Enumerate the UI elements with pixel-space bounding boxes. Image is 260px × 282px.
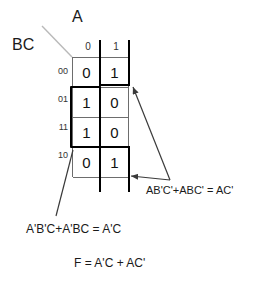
- column-variable-label: A: [72, 8, 83, 26]
- kmap-cell-r10-c0: 0: [73, 148, 101, 178]
- annotation-a-c-prime: AB'C'+ABC' = AC': [146, 184, 233, 196]
- group-outline-a-c-prime-top: [99, 40, 130, 86]
- header-divider-line: [42, 26, 72, 57]
- column-header-0: 0: [81, 41, 95, 52]
- annotation-final-expression: F = A'C + AC': [74, 256, 145, 270]
- kmap-cell-r01-c1: 0: [101, 88, 129, 118]
- annotation-a-prime-c: A'B'C+A'BC = A'C: [26, 222, 121, 236]
- leader-lines-overlay: [0, 0, 260, 282]
- leader-line-to-top-group: [133, 87, 170, 180]
- group-outline-a-c-prime-bottom: [99, 146, 130, 192]
- row-header-11: 11: [48, 122, 68, 132]
- row-header-10: 10: [48, 150, 68, 160]
- row-header-01: 01: [48, 94, 68, 104]
- leader-line-to-bottom-group: [131, 176, 170, 180]
- row-header-00: 00: [48, 66, 68, 76]
- kmap-cell-r00-c0: 0: [73, 58, 101, 88]
- kmap-diagram: A BC 0 1 00 01 11 10 0 1 1 0 1 0 0 1: [0, 0, 260, 282]
- group-outline-a-prime-c: [70, 86, 101, 148]
- row-variable-label: BC: [12, 36, 34, 54]
- kmap-cell-r11-c1: 0: [101, 118, 129, 148]
